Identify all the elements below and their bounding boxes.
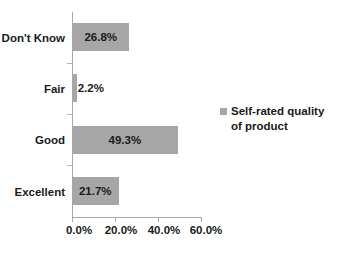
x-axis-tick <box>158 217 159 222</box>
legend-swatch-icon <box>220 108 227 115</box>
x-axis-tick <box>115 217 116 222</box>
bar-value-label-fair: 2.2% <box>78 74 104 102</box>
legend[interactable]: Self-rated quality of product <box>220 104 338 134</box>
x-axis-tick <box>201 217 202 222</box>
category-label-fair: Fair <box>44 82 65 96</box>
bar-value-label-excellent: 21.7% <box>72 177 119 205</box>
category-label-good: Good <box>35 133 65 147</box>
x-axis-tick <box>72 217 73 222</box>
bar-fair[interactable] <box>72 74 77 102</box>
category-label-dont-know: Don't Know <box>2 31 65 45</box>
x-axis-label-0: 0.0% <box>66 224 92 236</box>
x-axis-label-40: 40.0% <box>148 224 181 236</box>
bar-value-label-good: 49.3% <box>72 126 178 154</box>
legend-label-line2: of product <box>231 119 338 134</box>
bar-row: 26.8% <box>72 12 222 63</box>
legend-text: Self-rated quality of product <box>231 104 338 134</box>
x-axis-label-60: 60.0% <box>190 224 223 236</box>
bar-value-label-dont-know: 26.8% <box>72 23 129 51</box>
x-axis-label-20: 20.0% <box>105 224 138 236</box>
legend-label-line1: Self-rated quality <box>231 104 338 119</box>
category-label-excellent: Excellent <box>15 185 66 199</box>
bar-row: 21.7% <box>72 166 222 217</box>
plot-area: 26.8% 2.2% 49.3% 21.7% <box>72 12 222 217</box>
bar-row: 2.2% <box>72 63 222 114</box>
bar-row: 49.3% <box>72 115 222 166</box>
x-axis-line <box>72 217 201 218</box>
bar-chart: 26.8% 2.2% 49.3% 21.7% Don't Know Fair G… <box>0 0 340 255</box>
